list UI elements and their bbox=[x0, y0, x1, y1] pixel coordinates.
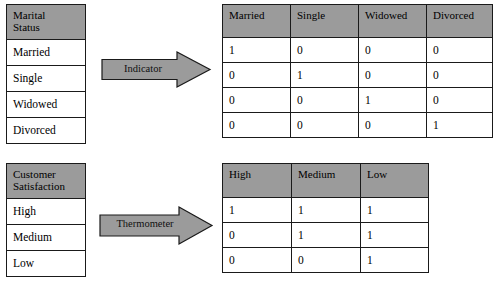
cell: 1 bbox=[361, 248, 429, 273]
encoded-header-high: High bbox=[223, 164, 292, 198]
encoded-header-married: Married bbox=[223, 5, 291, 38]
cell: 1 bbox=[292, 198, 361, 223]
cell: 1 bbox=[292, 223, 361, 248]
encoded-table-indicator: Married Single Widowed Divorced 1 0 0 0 … bbox=[222, 4, 493, 138]
encoded-header-single: Single bbox=[291, 5, 359, 38]
cell: 0 bbox=[359, 38, 427, 63]
source-value-single: Single bbox=[7, 66, 86, 92]
table-row: Low bbox=[7, 251, 86, 277]
cell: 1 bbox=[291, 63, 359, 88]
table-row: 0 1 0 0 bbox=[223, 63, 493, 88]
cell: 1 bbox=[427, 113, 493, 138]
diagram-canvas: Marital Status Married Single Widowed Di… bbox=[0, 0, 500, 283]
table-row: 0 0 1 bbox=[223, 248, 429, 273]
cell: 0 bbox=[223, 248, 292, 273]
header-line-2: Status bbox=[13, 21, 80, 33]
cell: 1 bbox=[223, 38, 291, 63]
table-row: High bbox=[7, 199, 86, 225]
table-row: Single bbox=[7, 66, 86, 92]
cell: 0 bbox=[291, 113, 359, 138]
cell: 1 bbox=[359, 88, 427, 113]
table-row: Married bbox=[7, 40, 86, 66]
table-header-row: Customer Satisfaction bbox=[7, 164, 86, 199]
table-row: 0 0 0 1 bbox=[223, 113, 493, 138]
arrow-right-icon bbox=[101, 51, 211, 88]
table-row: 1 1 1 bbox=[223, 198, 429, 223]
cell: 0 bbox=[359, 63, 427, 88]
source-header-marital-status: Marital Status bbox=[7, 5, 86, 40]
encoded-table-thermometer: High Medium Low 1 1 1 0 1 1 0 0 1 bbox=[222, 163, 429, 273]
cell: 0 bbox=[291, 88, 359, 113]
source-value-widowed: Widowed bbox=[7, 92, 86, 118]
table-row: Medium bbox=[7, 225, 86, 251]
header-line-1: Marital bbox=[13, 9, 80, 21]
table-header-row: Marital Status bbox=[7, 5, 86, 40]
encoded-header-divorced: Divorced bbox=[427, 5, 493, 38]
cell: 0 bbox=[359, 113, 427, 138]
table-row: Divorced bbox=[7, 118, 86, 144]
cell: 1 bbox=[361, 223, 429, 248]
table-row: 0 0 1 0 bbox=[223, 88, 493, 113]
cell: 1 bbox=[223, 198, 292, 223]
encoded-header-low: Low bbox=[361, 164, 429, 198]
encoded-header-medium: Medium bbox=[292, 164, 361, 198]
cell: 0 bbox=[223, 113, 291, 138]
source-value-married: Married bbox=[7, 40, 86, 66]
source-value-low: Low bbox=[7, 251, 86, 277]
table-header-row: High Medium Low bbox=[223, 164, 429, 198]
table-row: 1 0 0 0 bbox=[223, 38, 493, 63]
cell: 0 bbox=[223, 88, 291, 113]
cell: 0 bbox=[223, 63, 291, 88]
source-value-divorced: Divorced bbox=[7, 118, 86, 144]
cell: 0 bbox=[291, 38, 359, 63]
source-table-marital-status: Marital Status Married Single Widowed Di… bbox=[6, 4, 86, 144]
table-row: 0 1 1 bbox=[223, 223, 429, 248]
arrow-indicator: Indicator bbox=[101, 51, 211, 88]
cell: 0 bbox=[427, 38, 493, 63]
arrow-right-icon bbox=[99, 206, 213, 245]
cell: 0 bbox=[292, 248, 361, 273]
header-line-1: Customer bbox=[13, 168, 80, 180]
source-value-medium: Medium bbox=[7, 225, 86, 251]
cell: 0 bbox=[427, 88, 493, 113]
table-header-row: Married Single Widowed Divorced bbox=[223, 5, 493, 38]
cell: 0 bbox=[223, 223, 292, 248]
source-table-customer-satisfaction: Customer Satisfaction High Medium Low bbox=[6, 163, 86, 277]
encoded-header-widowed: Widowed bbox=[359, 5, 427, 38]
table-row: Widowed bbox=[7, 92, 86, 118]
source-header-customer-satisfaction: Customer Satisfaction bbox=[7, 164, 86, 199]
cell: 0 bbox=[427, 63, 493, 88]
cell: 1 bbox=[361, 198, 429, 223]
arrow-thermometer: Thermometer bbox=[99, 206, 213, 245]
header-line-2: Satisfaction bbox=[13, 180, 80, 192]
source-value-high: High bbox=[7, 199, 86, 225]
